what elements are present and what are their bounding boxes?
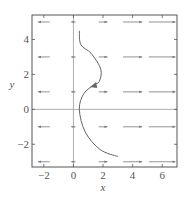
arrowhead-icon	[104, 126, 107, 129]
arrowhead-icon	[173, 21, 176, 24]
arrowhead-icon	[173, 160, 176, 163]
x-axis-label: x	[100, 181, 106, 193]
trajectory-curve	[79, 31, 117, 157]
x-tick-label: 6	[159, 169, 165, 181]
arrowhead-icon	[173, 126, 176, 129]
y-tick-label: −2	[17, 138, 29, 150]
direction-field	[38, 21, 176, 163]
arrowhead-icon	[104, 160, 107, 163]
x-tick-label: 2	[100, 169, 106, 181]
x-tick-label: −2	[38, 169, 50, 181]
x-axis-ticks: −20246	[38, 15, 165, 181]
arrowhead-icon	[104, 56, 107, 59]
arrowhead-icon	[139, 160, 142, 163]
y-tick-label: 0	[24, 103, 30, 115]
y-tick-label: 4	[24, 33, 30, 45]
arrowhead-icon	[38, 91, 41, 94]
arrowhead-icon	[104, 21, 107, 24]
arrowhead-icon	[38, 126, 41, 129]
arrowhead-icon	[139, 126, 142, 129]
direction-arrow-icon	[90, 82, 97, 88]
arrowhead-icon	[38, 21, 41, 24]
arrowhead-icon	[173, 56, 176, 59]
phase-plane-chart: −20246 −2024 x y	[0, 0, 190, 203]
arrowhead-icon	[173, 91, 176, 94]
arrowhead-icon	[139, 56, 142, 59]
arrowhead-icon	[38, 160, 41, 163]
arrowhead-icon	[139, 91, 142, 94]
y-tick-label: 2	[24, 68, 30, 80]
arrowhead-icon	[139, 21, 142, 24]
x-tick-label: 0	[71, 169, 77, 181]
x-tick-label: 4	[130, 169, 136, 181]
y-axis-label: y	[9, 78, 15, 90]
arrowhead-icon	[38, 56, 41, 59]
arrowhead-icon	[104, 91, 107, 94]
